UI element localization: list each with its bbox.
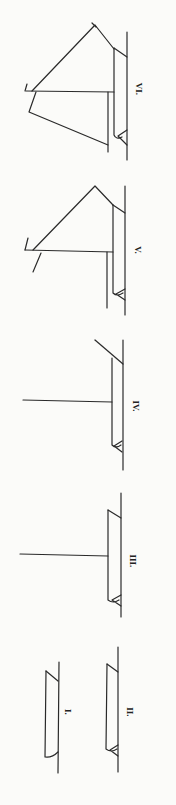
figure-5-label: V. <box>133 246 143 254</box>
hull <box>114 48 127 145</box>
hull <box>106 664 118 756</box>
fore-sail <box>32 25 114 91</box>
gaff-hook <box>25 238 28 250</box>
figure-2 <box>106 647 118 772</box>
hull <box>45 671 58 757</box>
hull <box>112 358 122 452</box>
figure-6 <box>25 23 127 160</box>
mast <box>20 554 108 556</box>
bow-stay <box>95 340 123 364</box>
mast <box>23 400 112 402</box>
main-sail <box>29 92 108 145</box>
figure-2-label: II. <box>125 707 135 716</box>
figure-5 <box>25 186 125 315</box>
gaff-hook <box>25 84 27 91</box>
bow <box>114 48 127 57</box>
figure-3 <box>20 493 121 617</box>
bow <box>46 671 58 681</box>
figure-1 <box>45 662 59 773</box>
hull <box>113 205 125 300</box>
mast <box>26 91 114 92</box>
figure-4 <box>23 340 123 470</box>
triangular-sail <box>33 186 113 250</box>
waterline <box>58 662 59 773</box>
mast <box>25 250 113 252</box>
bow <box>113 205 125 213</box>
bow <box>108 510 121 518</box>
figure-3-label: III. <box>128 555 138 568</box>
figure-4-label: IV. <box>131 400 141 411</box>
figure-1-label: I. <box>63 709 73 715</box>
hull <box>108 510 121 606</box>
bow <box>107 664 118 672</box>
boat-figures-diagram <box>0 0 176 805</box>
figure-6-label: VI. <box>134 83 144 95</box>
spar <box>33 253 41 272</box>
